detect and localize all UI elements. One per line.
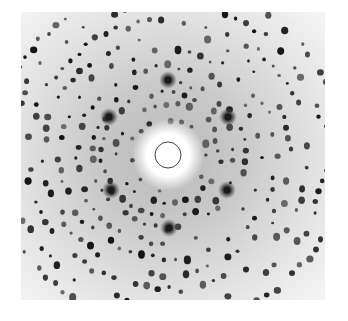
diffraction-pattern	[21, 12, 325, 300]
diffraction-image	[21, 12, 325, 300]
beamstop-icon	[155, 142, 181, 168]
